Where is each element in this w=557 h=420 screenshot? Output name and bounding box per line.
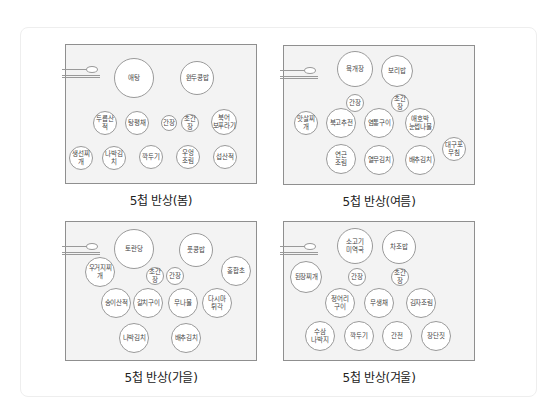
dish-circle: 간장 bbox=[161, 115, 177, 131]
table-setting-autumn bbox=[65, 221, 257, 361]
dish-circle: 보리밥 bbox=[381, 55, 413, 87]
dish-circle: 초간장 bbox=[391, 94, 409, 112]
dish-circle: 무나물 bbox=[168, 288, 198, 318]
dish-circle: 육개장 bbox=[337, 51, 373, 87]
dish-circle: 간장 bbox=[166, 267, 184, 285]
dish-circle: 배추김치 bbox=[405, 145, 435, 175]
dish-circle: 나박김치 bbox=[102, 146, 126, 170]
dish-circle: 생선찌개 bbox=[69, 146, 93, 170]
dish-circle: 깍두기 bbox=[139, 145, 163, 169]
dish-circle: 차조밥 bbox=[382, 230, 416, 264]
dish-circle: 북어 보푸라기 bbox=[211, 109, 237, 135]
panel-caption: 5첩 반상(봄) bbox=[65, 191, 257, 208]
dish-circle: 배추김치 bbox=[171, 323, 201, 353]
dish-circle: 염통구이 bbox=[364, 108, 394, 138]
panel-caption: 5첩 반상(가을) bbox=[65, 368, 257, 385]
dish-circle: 연근 조림 bbox=[326, 144, 356, 174]
dish-circle: 홍합초 bbox=[221, 256, 251, 286]
dish-circle: 우엉 조림 bbox=[176, 145, 200, 169]
dish-circle: 간장 bbox=[348, 268, 366, 286]
dish-circle: 초간장 bbox=[391, 268, 409, 286]
dish-circle: 나박김치 bbox=[119, 323, 149, 353]
spoon-chopsticks-icon bbox=[62, 243, 100, 257]
dish-circle: 된장찌개 bbox=[290, 261, 322, 293]
dish-circle: 소고기 미역국 bbox=[337, 228, 373, 264]
dish-circle: 김자조림 bbox=[406, 288, 436, 318]
dish-circle: 간전 bbox=[382, 321, 412, 351]
dish-circle: 대구포 무침 bbox=[442, 137, 466, 161]
dish-circle: 수삼 나박지 bbox=[305, 321, 335, 351]
dish-circle: 애탕 bbox=[114, 58, 154, 98]
dish-circle: 맛살찌개 bbox=[294, 111, 318, 135]
dish-circle: 우거지찌개 bbox=[85, 257, 115, 287]
dish-circle: 두릅산적 bbox=[93, 111, 117, 135]
dish-circle: 완두콩밥 bbox=[180, 61, 214, 95]
dish-circle: 섭산적 bbox=[213, 145, 237, 169]
dish-circle: 깍두기 bbox=[344, 321, 374, 351]
panel-caption: 5첩 반상(여름) bbox=[283, 192, 475, 209]
panel-caption: 5첩 반상(겨울) bbox=[283, 368, 475, 385]
dish-circle: 열무김치 bbox=[364, 145, 394, 175]
dish-circle: 초간장 bbox=[146, 267, 164, 285]
spoon-chopsticks-icon bbox=[62, 66, 100, 80]
dish-circle: 탕평채 bbox=[125, 111, 149, 135]
spoon-chopsticks-icon bbox=[280, 67, 318, 81]
dish-circle: 갈치구이 bbox=[133, 288, 163, 318]
dish-circle: 애호박 눈썹나물 bbox=[405, 108, 435, 138]
dish-circle: 정어리 구이 bbox=[325, 288, 355, 318]
spoon-chopsticks-icon bbox=[280, 243, 318, 257]
dish-circle: 북고추전 bbox=[326, 108, 356, 138]
dish-circle: 다시마 튀각 bbox=[202, 288, 232, 318]
dish-circle: 장단짓 bbox=[421, 321, 451, 351]
dish-circle: 초간장 bbox=[181, 114, 199, 132]
dish-circle: 무생채 bbox=[364, 288, 394, 318]
dish-circle: 토란당 bbox=[114, 229, 154, 269]
dish-circle: 풋콩밥 bbox=[179, 233, 213, 267]
dish-circle: 송이산적 bbox=[101, 288, 131, 318]
